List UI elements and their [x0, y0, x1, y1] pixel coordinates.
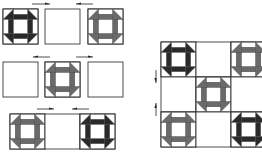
block-row-3 [10, 107, 115, 149]
block-row-2 [3, 55, 123, 97]
press-direction-arrow-right-icon [37, 107, 54, 109]
plain-white-block [45, 114, 80, 149]
plain-white-block [3, 62, 38, 97]
churn-dash-dark-block [161, 42, 196, 77]
plain-white-block [196, 112, 231, 147]
churn-dash-medium-block [161, 112, 196, 147]
plain-white-block [45, 9, 80, 44]
churn-dash-medium-block [45, 62, 80, 97]
press-direction-arrow-left-icon [76, 2, 93, 4]
press-direction-arrow-right-icon [32, 2, 50, 4]
quilt-assembly-diagram [0, 0, 262, 160]
press-direction-arrow-left-icon [72, 107, 89, 109]
churn-dash-medium-block [231, 42, 262, 77]
plain-white-block [196, 42, 231, 77]
plain-white-block [161, 77, 196, 112]
churn-dash-medium-block [196, 77, 231, 112]
plain-white-block [88, 62, 123, 97]
press-direction-arrow-down-icon [154, 70, 156, 83]
churn-dash-dark-block [231, 112, 262, 147]
churn-dash-dark-block [80, 114, 115, 149]
block-row-1 [3, 2, 123, 44]
churn-dash-medium-block [10, 114, 45, 149]
press-direction-arrow-left-icon [33, 55, 50, 57]
finished-quilt-top [154, 42, 262, 147]
row-assembly-diagram [3, 2, 123, 149]
churn-dash-dark-block [3, 9, 38, 44]
press-direction-arrow-up-icon [154, 103, 156, 116]
churn-dash-medium-block [88, 9, 123, 44]
press-direction-arrow-right-icon [76, 55, 93, 57]
plain-white-block [231, 77, 262, 112]
